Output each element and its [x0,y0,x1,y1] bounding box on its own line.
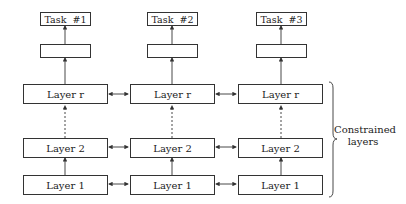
column-1-layer-r: Layer r [23,84,108,104]
brace-label-line2: layers [334,136,392,148]
layer-label: Layer 1 [261,180,300,191]
task-3-output: Task #3 [256,12,307,26]
column-2-layer-1: Layer 1 [130,175,215,195]
column-2-layer-2: Layer 2 [130,138,215,158]
layer-label: Layer 2 [261,143,300,154]
layer-label: Layer 1 [46,180,85,191]
task-1-head [40,44,91,58]
task-2-head [147,44,198,58]
column-1-layer-1: Layer 1 [23,175,108,195]
column-3-layer-2: Layer 2 [238,138,323,158]
column-3-layer-1: Layer 1 [238,175,323,195]
layer-label: Layer 2 [153,143,192,154]
layer-label: Layer r [154,89,191,100]
constrained-layers-label: Constrained layers [334,124,392,148]
column-2-layer-r: Layer r [130,84,215,104]
brace-label-line1: Constrained [334,124,392,136]
layer-label: Layer r [47,89,84,100]
layer-label: Layer 1 [153,180,192,191]
task-2-output: Task #2 [147,12,198,26]
task-3-head [256,44,307,58]
layer-label: Layer 2 [46,143,85,154]
column-3-layer-r: Layer r [238,84,323,104]
column-1-layer-2: Layer 2 [23,138,108,158]
task-1-output: Task #1 [40,12,91,26]
layer-label: Layer r [262,89,299,100]
